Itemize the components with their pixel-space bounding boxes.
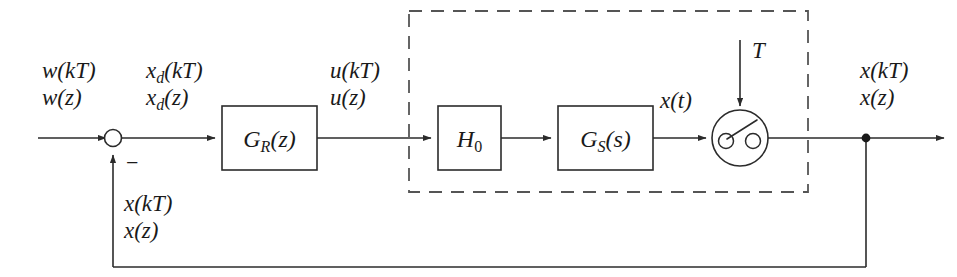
label-output-ztransform: x(z) xyxy=(859,85,894,110)
diagram-canvas: GR(z) H0 GS(s) w(kT) w(z) xd(kT) xd(z) u… xyxy=(0,0,957,277)
block-plant-label: GS(s) xyxy=(580,126,631,155)
label-control-discrete: u(kT) xyxy=(330,58,380,83)
label-output-discrete: x(kT) xyxy=(859,58,909,83)
label-error-discrete: xd(kT) xyxy=(145,58,203,86)
block-controller-label: GR(z) xyxy=(243,126,295,155)
label-error-ztransform: xd(z) xyxy=(145,85,189,113)
block-diagram-root: GR(z) H0 GS(s) w(kT) w(z) xd(kT) xd(z) u… xyxy=(0,0,957,277)
label-plant-output-continuous: x(t) xyxy=(659,88,692,113)
summing-junction-minus-sign: − xyxy=(126,150,138,175)
label-reference-discrete: w(kT) xyxy=(42,58,96,83)
sampler-contact-right xyxy=(746,134,761,149)
label-feedback-ztransform: x(z) xyxy=(123,218,158,243)
label-control-ztransform: u(z) xyxy=(330,85,366,110)
label-sampling-period: T xyxy=(752,38,767,63)
feedback-tap-node xyxy=(862,134,871,143)
summing-junction xyxy=(105,130,122,147)
label-reference-ztransform: w(z) xyxy=(42,85,82,110)
label-feedback-discrete: x(kT) xyxy=(123,191,173,216)
